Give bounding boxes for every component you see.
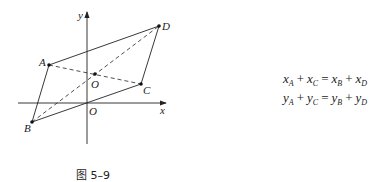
point-a: [47, 63, 51, 67]
point-d: [157, 24, 161, 28]
operator: +: [294, 90, 307, 105]
operator: =: [318, 90, 331, 105]
formula-x: xA+xC=xB+xD: [283, 71, 367, 88]
label-origin: O: [89, 105, 97, 117]
point-center: [93, 72, 97, 76]
figure-caption: 图 5–9: [76, 166, 110, 182]
subscript: D: [361, 98, 367, 107]
subscript: A: [289, 98, 294, 107]
operator: +: [294, 71, 307, 86]
parallelogram-diagram: A B C D O O x y: [0, 0, 200, 165]
operator: =: [318, 71, 331, 86]
operator: +: [342, 71, 355, 86]
label-b: B: [24, 122, 31, 134]
label-d: D: [161, 20, 170, 32]
label-a: A: [38, 56, 46, 68]
label-center: O: [91, 78, 99, 90]
label-x-axis: x: [159, 104, 165, 116]
subscript: D: [361, 79, 367, 88]
subscript: A: [289, 79, 294, 88]
point-b: [30, 120, 34, 124]
formula-y: yA+yC=yB+yD: [283, 90, 367, 107]
label-c: C: [143, 84, 151, 96]
label-y-axis: y: [77, 9, 83, 21]
operator: +: [342, 90, 355, 105]
